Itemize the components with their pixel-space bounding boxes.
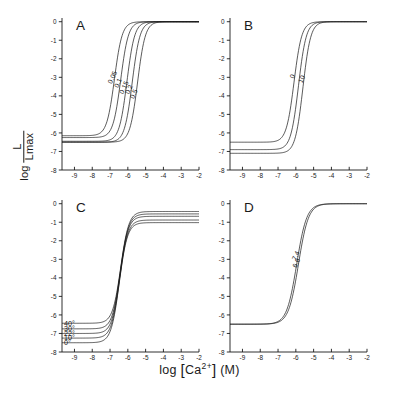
y-tick-label-B: -8 <box>219 167 225 174</box>
y-tick-label-A: -4 <box>51 92 57 99</box>
curve-C-22deg <box>62 216 199 333</box>
y-axis-title-denominator: Lmax <box>24 131 36 163</box>
y-axis-title-numerator: L <box>12 131 23 163</box>
y-tick-label-A: -7 <box>51 148 57 155</box>
y-tick-label-C: -4 <box>51 274 57 281</box>
y-tick-label-D: -6 <box>219 312 225 319</box>
panel-D: 0-1-2-3-4-5-6-7-8-9-8-7-6-5-4-3-2D7.46.6 <box>219 200 370 361</box>
panel-label-A: A <box>76 18 85 33</box>
y-axis-title-fraction: LLmax <box>12 131 35 163</box>
y-tick-label-C: -5 <box>51 293 57 300</box>
panels-svg: 0-1-2-3-4-5-6-7-8-9-8-7-6-5-4-3-2A0.050.… <box>0 0 399 393</box>
x-tick-label-B: -6 <box>293 172 299 179</box>
y-tick-label-B: -2 <box>219 55 225 62</box>
y-tick-label-B: -4 <box>219 92 225 99</box>
y-axis-title-prefix: log <box>18 165 30 180</box>
y-tick-label-B: -7 <box>219 148 225 155</box>
y-tick-label-B: -1 <box>219 37 225 44</box>
x-tick-label-B: -4 <box>329 172 335 179</box>
x-tick-label-B: -3 <box>346 172 352 179</box>
curve-B-mid <box>230 22 367 150</box>
curve-label-C-0deg: 0° <box>64 338 71 347</box>
panel-label-D: D <box>244 200 254 215</box>
y-tick-label-D: -7 <box>219 330 225 337</box>
y-tick-label-D: -3 <box>219 256 225 263</box>
y-tick-label-A: -2 <box>51 55 57 62</box>
y-tick-label-B: -6 <box>219 130 225 137</box>
y-tick-label-D: -8 <box>219 349 225 356</box>
x-tick-label-A: -5 <box>143 172 149 179</box>
y-tick-label-D: -1 <box>219 219 225 226</box>
x-tick-label-A: -6 <box>125 172 131 179</box>
curve-A-0.50 <box>62 22 199 142</box>
curve-A-0.10 <box>62 22 199 138</box>
curve-C-0deg <box>62 223 199 343</box>
y-tick-label-B: -3 <box>219 74 225 81</box>
y-tick-label-D: -2 <box>219 237 225 244</box>
panel-C: 0-1-2-3-4-5-6-7-8-9-8-7-6-5-4-3-2C40°30°… <box>51 200 202 361</box>
y-tick-label-A: 0 <box>53 18 57 25</box>
y-tick-label-D: -5 <box>219 293 225 300</box>
y-tick-label-C: -3 <box>51 256 57 263</box>
y-axis-title: logLLmax <box>2 118 48 188</box>
panel-B: 0-1-2-3-4-5-6-7-8-9-8-7-6-5-4-3-2B010 <box>219 18 370 179</box>
x-tick-label-A: -2 <box>196 172 202 179</box>
curve-A-0.15 <box>62 22 199 142</box>
y-tick-label-B: -5 <box>219 111 225 118</box>
figure-container: logLLmax 0-1-2-3-4-5-6-7-8-9-8-7-6-5-4-3… <box>0 0 399 393</box>
y-tick-label-A: -1 <box>51 37 57 44</box>
y-tick-label-C: 0 <box>53 200 57 207</box>
x-tick-label-B: -8 <box>257 172 263 179</box>
curve-label-B-10: 10 <box>297 74 307 84</box>
x-tick-label-A: -7 <box>107 172 113 179</box>
panel-label-B: B <box>244 18 253 33</box>
curve-A-0.20 <box>62 22 199 142</box>
x-tick-label-A: -3 <box>178 172 184 179</box>
y-tick-label-A: -6 <box>51 130 57 137</box>
y-tick-label-C: -8 <box>51 349 57 356</box>
y-tick-label-D: -4 <box>219 274 225 281</box>
panel-label-C: C <box>76 200 86 215</box>
y-tick-label-C: -6 <box>51 312 57 319</box>
curve-A-0.05 <box>62 22 199 136</box>
curve-C-30deg <box>62 214 199 329</box>
x-tick-label-B: -7 <box>275 172 281 179</box>
x-axis-title: log [Ca2+] (M) <box>0 360 399 377</box>
x-tick-label-A: -9 <box>72 172 78 179</box>
x-tick-label-B: -2 <box>364 172 370 179</box>
x-tick-label-A: -4 <box>161 172 167 179</box>
y-tick-label-D: 0 <box>221 200 225 207</box>
y-tick-label-B: 0 <box>221 18 225 25</box>
x-tick-label-A: -8 <box>89 172 95 179</box>
curve-C-10deg <box>62 220 199 338</box>
panel-A: 0-1-2-3-4-5-6-7-8-9-8-7-6-5-4-3-2A0.050.… <box>51 18 202 179</box>
y-tick-label-A: -8 <box>51 167 57 174</box>
x-tick-label-B: -9 <box>240 172 246 179</box>
y-tick-label-C: -2 <box>51 237 57 244</box>
y-tick-label-C: -1 <box>51 219 57 226</box>
x-tick-label-B: -5 <box>311 172 317 179</box>
y-tick-label-C: -7 <box>51 330 57 337</box>
y-tick-label-A: -5 <box>51 111 57 118</box>
y-tick-label-A: -3 <box>51 74 57 81</box>
